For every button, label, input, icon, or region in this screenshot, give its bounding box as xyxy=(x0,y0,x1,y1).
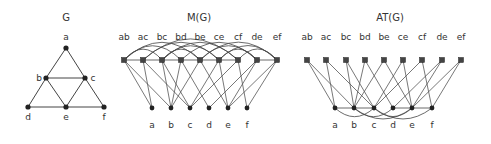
mg-edge-node-ab xyxy=(122,58,127,63)
g-vertex-a xyxy=(63,45,68,50)
atg-vertex-node-label: f xyxy=(430,120,434,130)
atg-edge-node-label: ce xyxy=(398,32,409,42)
g-vertex-e xyxy=(63,104,68,109)
atg-edge-node-be xyxy=(382,58,387,63)
mg-vertex-node-c xyxy=(188,106,193,111)
diagram-canvas: G M(G) AT(G) abcdef abacbcbdbececfdeefab… xyxy=(0,0,491,144)
mg-vertex-node-d xyxy=(207,106,212,111)
mg-vertex-node-label: a xyxy=(149,120,155,130)
mg-edge-node-label: ab xyxy=(118,32,130,42)
atg-edge-node-ef xyxy=(459,58,464,63)
atg-vertex-node-label: c xyxy=(372,120,377,130)
atg-incidence-cf-c xyxy=(374,60,422,108)
g-vertex-f xyxy=(101,104,106,109)
mg-vertex-node-label: f xyxy=(245,120,249,130)
g-vertex-label: f xyxy=(102,112,106,122)
graph-mg: abacbcbdbececfdeefabcdef xyxy=(118,32,282,130)
atg-edge-node-label: bd xyxy=(359,32,370,42)
atg-vertex-node-label: a xyxy=(332,120,338,130)
atg-edge-node-label: ac xyxy=(321,32,332,42)
atg-vertex-node-e xyxy=(410,106,415,111)
mg-edge-node-bc xyxy=(160,58,165,63)
mg-vertex-node-label: b xyxy=(168,120,174,130)
atg-edge-node-bd xyxy=(363,58,368,63)
atg-edge-node-label: bc xyxy=(341,32,352,42)
atg-vertex-node-label: b xyxy=(351,120,357,130)
atg-edge-node-bc xyxy=(344,58,349,63)
g-vertex-label: a xyxy=(63,32,69,42)
g-edge-ac xyxy=(66,48,85,78)
mg-edge-node-be xyxy=(198,58,203,63)
mg-edge-node-bd xyxy=(179,58,184,63)
mg-title: M(G) xyxy=(187,12,211,23)
mg-vertex-node-f xyxy=(245,106,250,111)
mg-edge-node-label: bd xyxy=(175,32,186,42)
atg-vertex-node-a xyxy=(333,106,338,111)
atg-edge-node-label: cf xyxy=(418,32,427,42)
atg-vertex-node-label: e xyxy=(409,120,415,130)
mg-edge-node-label: ac xyxy=(138,32,149,42)
mg-edge-node-label: ce xyxy=(214,32,225,42)
g-edge-be xyxy=(46,78,66,107)
atg-incidence-de-e xyxy=(412,60,442,108)
mg-vertex-node-a xyxy=(150,106,155,111)
atg-edge-node-ab xyxy=(305,58,310,63)
atg-edge-node-ac xyxy=(324,58,329,63)
mg-edge-node-de xyxy=(255,58,260,63)
g-vertex-c xyxy=(82,75,87,80)
mg-edge-node-label: de xyxy=(251,32,263,42)
mg-edge-node-ac xyxy=(141,58,146,63)
atg-edge-node-label: de xyxy=(436,32,448,42)
mg-incidence-ef-f xyxy=(247,60,277,108)
mg-edge-node-ce xyxy=(217,58,222,63)
g-vertex-d xyxy=(25,104,30,109)
atg-vertex-node-f xyxy=(430,106,435,111)
mg-vertex-node-e xyxy=(226,106,231,111)
g-vertex-label: e xyxy=(63,112,69,122)
mg-edge-node-label: be xyxy=(194,32,206,42)
g-title: G xyxy=(62,12,70,23)
mg-edge-node-cf xyxy=(236,58,241,63)
mg-vertex-node-label: d xyxy=(206,120,212,130)
atg-edge-node-cf xyxy=(420,58,425,63)
graph-g: abcdef xyxy=(25,32,106,122)
g-vertex-label: b xyxy=(36,73,42,83)
mg-edge-node-label: ef xyxy=(273,32,283,42)
atg-vertex-node-b xyxy=(352,106,357,111)
atg-title: AT(G) xyxy=(376,12,404,23)
g-edge-ce xyxy=(66,78,85,107)
mg-edge-node-label: bc xyxy=(157,32,168,42)
mg-vertex-node-label: c xyxy=(188,120,193,130)
graph-atg: abacbcbdbececfdeefabcdef xyxy=(301,32,466,130)
g-vertex-label: c xyxy=(91,73,96,83)
atg-edge-node-label: be xyxy=(378,32,390,42)
g-vertex-b xyxy=(43,75,48,80)
mg-incidence-bd-b xyxy=(171,60,181,108)
atg-vertex-node-label: d xyxy=(390,120,396,130)
mg-vertex-node-label: e xyxy=(225,120,231,130)
mg-incidence-de-d xyxy=(209,60,257,108)
atg-vertex-node-d xyxy=(391,106,396,111)
atg-edge-node-de xyxy=(440,58,445,63)
atg-edge-node-label: ab xyxy=(301,32,313,42)
mg-edge-node-ef xyxy=(275,58,280,63)
mg-vertex-node-b xyxy=(169,106,174,111)
mg-incidence-cf-c xyxy=(190,60,238,108)
g-edge-ab xyxy=(46,48,66,78)
atg-vertex-node-c xyxy=(372,106,377,111)
atg-incidence-bd-b xyxy=(354,60,365,108)
mg-edge-node-label: cf xyxy=(234,32,243,42)
atg-edge-node-label: ef xyxy=(457,32,467,42)
g-vertex-label: d xyxy=(25,112,31,122)
atg-edge-node-ce xyxy=(401,58,406,63)
atg-incidence-de-d xyxy=(393,60,442,108)
